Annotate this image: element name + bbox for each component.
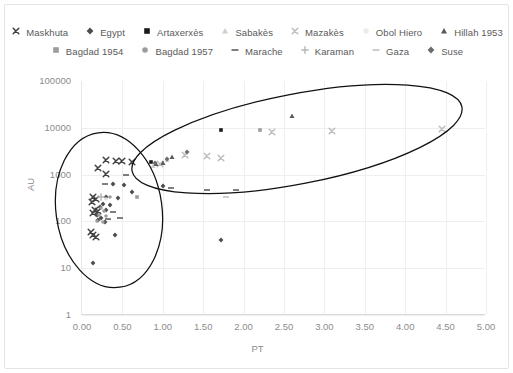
legend-label: Marache [245,46,283,57]
x-axis-title: PT [5,343,510,354]
data-point [92,233,100,241]
gridline-vertical [365,81,366,314]
data-point [110,181,116,187]
legend-marker-triangle-icon [221,27,232,38]
data-point [94,164,102,172]
legend-item-obol-hiero[interactable]: Obol Hiero [362,27,422,38]
x-axis-tick-label: 2.50 [261,321,307,332]
data-point [109,208,116,215]
data-point [232,186,239,193]
x-axis-tick-label: 2.00 [221,321,267,332]
data-point [90,260,96,266]
data-point [97,193,105,201]
legend-label: Karaman [315,46,354,57]
data-point [102,156,110,164]
data-point [96,212,102,218]
data-point [116,214,123,221]
plot-area: 1101001000100001000000.000.501.001.502.0… [81,81,485,315]
legend-item-hillah-1953[interactable]: Hillah 1953 [440,27,503,38]
x-axis-tick-label: 3.50 [342,321,388,332]
legend-label: Hillah 1953 [454,27,503,38]
legend-row: Bagdad 1954Bagdad 1957MaracheKaramanGaza… [5,42,510,61]
data-point [167,184,174,191]
y-axis-tick-label: 10000 [5,122,71,133]
legend-marker-x-icon [291,27,302,38]
chart-card: MaskhutaEgyptArtaxerxèsSabakèsMazakèsObo… [4,4,509,369]
legend-item-bagdad-1957[interactable]: Bagdad 1957 [141,46,213,57]
y-axis-tick-label: 1000 [5,169,71,180]
legend-marker-triangle-icon [440,27,451,38]
data-point [203,152,211,160]
y-axis-tick-label: 100000 [5,75,71,86]
gridline-vertical [284,81,285,314]
legend-label: Sabakès [235,27,273,38]
legend-item-karaman[interactable]: Karaman [301,46,354,57]
legend-item-sabak-s[interactable]: Sabakès [221,27,273,38]
legend-marker-x-icon [12,27,23,38]
legend-item-bagdad-1954[interactable]: Bagdad 1954 [52,46,124,57]
data-point [169,153,176,160]
legend-marker-dash-icon [372,46,383,57]
legend-item-mazak-s[interactable]: Mazakès [291,27,344,38]
x-axis-tick-label: 0.00 [59,321,105,332]
legend-marker-square-icon [143,27,154,38]
y-axis-title: AU [25,178,36,191]
x-axis-tick-label: 0.50 [99,321,145,332]
data-point [184,149,190,155]
legend-label: Artaxerxès [157,27,203,38]
gridline-vertical [163,81,164,314]
data-point [218,127,224,133]
x-axis-tick-label: 4.50 [423,321,469,332]
legend-label: Obol Hiero [376,27,422,38]
x-axis-tick-label: 5.00 [463,321,509,332]
data-point [134,194,140,200]
legend-label: Suse [441,46,463,57]
data-point [164,156,170,162]
data-point [123,171,130,178]
data-point [257,127,263,133]
data-point [88,198,96,206]
data-point [217,154,225,162]
data-point [118,157,126,165]
legend-marker-circle-icon [362,27,373,38]
data-point [218,237,224,243]
gridline-horizontal [82,315,485,316]
gridline-vertical [324,81,325,314]
legend-row: MaskhutaEgyptArtaxerxèsSabakèsMazakèsObo… [5,23,510,42]
data-point [112,232,118,238]
gridline-vertical [122,81,123,314]
data-point [102,170,110,178]
x-axis-tick-label: 1.50 [180,321,226,332]
gridline-vertical [203,81,204,314]
data-point [328,127,336,135]
legend-marker-square-icon [52,46,63,57]
data-point [160,183,166,189]
legend-item-artaxerx-s[interactable]: Artaxerxès [143,27,203,38]
data-point [104,216,111,223]
gridline-vertical [446,81,447,314]
legend-label: Gaza [386,46,409,57]
legend-marker-diamond-icon [427,46,438,57]
y-axis-tick-label: 10 [5,262,71,273]
legend-label: Mazakès [305,27,344,38]
data-point [128,158,136,166]
legend-item-marache[interactable]: Marache [231,46,283,57]
data-point [204,186,211,193]
gridline-vertical [486,81,487,314]
legend-label: Maskhuta [26,27,68,38]
chart-legend: MaskhutaEgyptArtaxerxèsSabakèsMazakèsObo… [5,23,510,61]
data-point [101,181,108,188]
legend-item-gaza[interactable]: Gaza [372,46,409,57]
data-point [107,194,113,200]
legend-label: Bagdad 1957 [155,46,213,57]
legend-marker-circle-icon [141,46,152,57]
legend-item-maskhuta[interactable]: Maskhuta [12,27,68,38]
x-axis-tick-label: 3.00 [301,321,347,332]
legend-item-suse[interactable]: Suse [427,46,463,57]
gridline-vertical [244,81,245,314]
legend-marker-plus-icon [301,46,312,57]
legend-marker-diamond-icon [86,27,97,38]
legend-item-egypt[interactable]: Egypt [86,27,125,38]
y-axis-tick-label: 100 [5,215,71,226]
legend-label: Bagdad 1954 [66,46,124,57]
